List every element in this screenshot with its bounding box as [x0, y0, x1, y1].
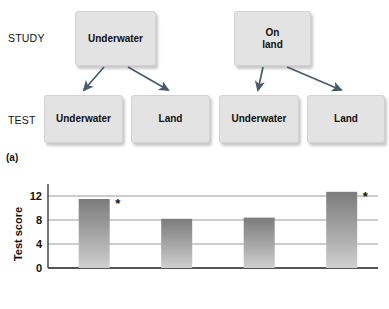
- bar-4: [326, 192, 357, 268]
- y-tick-label-8: 8: [36, 214, 42, 226]
- arrow-study-uw-to-test-land: [128, 67, 168, 90]
- panel-b-bar-chart: Test score 04812 ** (b): [0, 176, 389, 296]
- arrow-study-uw-to-test-uw: [84, 67, 104, 90]
- panel-a-diagram: STUDY TEST Underwater On land Underwater…: [0, 0, 389, 155]
- y-axis-title-group: Test score: [12, 207, 24, 261]
- y-tick-labels: 04812: [30, 190, 43, 274]
- y-tick-label-12: 12: [30, 190, 42, 202]
- bar-2: [161, 219, 192, 268]
- bar-chart-svg: Test score 04812 **: [0, 176, 389, 291]
- y-tick-label-4: 4: [36, 238, 43, 250]
- diagram-arrows: [0, 0, 389, 155]
- y-tick-label-0: 0: [36, 262, 42, 274]
- bars-group: [79, 192, 358, 268]
- y-axis-title: Test score: [12, 207, 24, 261]
- panel-a-caption: (a): [6, 152, 18, 163]
- bar-1: [79, 199, 110, 268]
- arrow-study-land-to-test-uw: [258, 67, 263, 90]
- arrow-study-land-to-test-land: [287, 67, 341, 90]
- bar-3: [244, 218, 275, 268]
- significance-star-bar-1: *: [115, 196, 121, 211]
